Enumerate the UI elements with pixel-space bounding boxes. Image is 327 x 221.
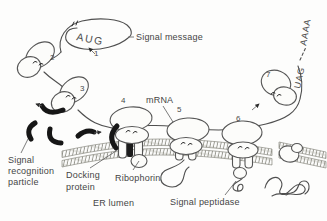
step-2-number: 2	[50, 53, 55, 62]
signal-hypothesis-diagram: AUG UAG AAAA Signal message mRNA Signal …	[0, 0, 327, 221]
er-lumen-label: ER lumen	[93, 198, 134, 208]
leader-signal-peptidase	[225, 181, 236, 195]
signal-peptidase-shape	[234, 168, 247, 179]
small-subunit	[170, 138, 202, 155]
step-6-number: 6	[236, 114, 241, 123]
membrane-fragment	[277, 142, 326, 168]
stop-codon-label: UAG	[292, 66, 306, 90]
srp-crescent-4	[78, 131, 94, 136]
step-7-arrow	[252, 104, 259, 110]
start-codon-label: AUG	[76, 30, 105, 47]
small-subunit	[116, 127, 149, 144]
step-4-number: 4	[121, 96, 126, 105]
step-5-number: 5	[177, 105, 182, 114]
small-subunit	[228, 142, 258, 158]
mrna-ribosome2-to-3	[44, 72, 64, 88]
mrna-label: mRNA	[146, 95, 173, 105]
srp-label-line-2: recognition	[8, 166, 54, 176]
fragment-membrane-protein-lobe	[292, 144, 303, 153]
signal-peptidase-label: Signal peptidase	[170, 197, 240, 207]
step-3-number: 3	[80, 84, 85, 93]
poly-a-label: AAAA	[298, 18, 313, 47]
poly-a-dash-link	[300, 47, 306, 60]
leader-mrna	[163, 106, 173, 122]
nascent-chain-stage-5	[161, 160, 189, 187]
signal-message-label: Signal message	[136, 32, 203, 42]
released-protein-squiggle-2	[272, 181, 309, 196]
ribosome-stage-5	[166, 117, 209, 155]
ribosome-stage-3	[48, 71, 93, 116]
srp-crescent-2	[29, 123, 35, 139]
leader-srp	[21, 139, 28, 153]
docking-protein-label-line-1: Docking	[66, 170, 100, 180]
mrna-ribosome3-to-membrane	[78, 110, 112, 128]
step-7-number: 7	[266, 70, 271, 79]
docking-protein-label-line-2: protein	[66, 182, 95, 192]
diagram-canvas: AUG UAG AAAA Signal message mRNA Signal …	[0, 0, 327, 221]
srp-label-line-3: particle	[8, 177, 39, 187]
ribophorin-label: Ribophorin	[115, 173, 161, 183]
released-protein-squiggle	[265, 177, 305, 195]
step-1-number: 1	[94, 49, 99, 58]
srp-label-line-1: Signal	[8, 155, 34, 165]
srp-crescent-3	[49, 129, 61, 143]
